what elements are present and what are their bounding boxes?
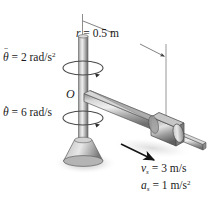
a-unit-exponent: 2	[187, 179, 191, 187]
v-subscript: s	[146, 168, 149, 176]
single-dot-accent: ·	[4, 102, 8, 113]
a-unit: m/s	[170, 179, 187, 191]
equals-sign: =	[12, 51, 19, 63]
a-subscript: s	[147, 185, 150, 193]
horizontal-arm	[84, 91, 156, 129]
omega-value: 6	[21, 106, 27, 118]
angular-velocity-label: θ· = 6 rad/s	[3, 107, 52, 119]
r-unit: m	[110, 27, 119, 39]
slider-acceleration-label: as = 1 m/s2	[141, 180, 191, 193]
omega-unit: rad/s	[30, 106, 52, 118]
r-symbol: r	[76, 27, 80, 39]
equals-sign: =	[152, 179, 159, 191]
equals-sign: =	[83, 27, 90, 39]
origin-label: O	[66, 88, 75, 100]
double-dot-accent: ¨	[4, 47, 8, 58]
equals-sign: =	[152, 162, 159, 174]
mechanics-figure: θ¨ = 2 rad/s2 θ· = 6 rad/s r = 0.5 m O v…	[0, 0, 215, 203]
v-unit: m/s	[170, 162, 187, 174]
slider-velocity-label: vs = 3 m/s	[141, 163, 186, 176]
alpha-unit-exponent: 2	[52, 51, 56, 59]
conical-base	[63, 137, 103, 166]
radius-label: r = 0.5 m	[76, 28, 119, 40]
equals-sign: =	[12, 106, 19, 118]
alpha-value: 2	[21, 51, 27, 63]
alpha-unit: rad/s	[30, 51, 52, 63]
v-value: 3	[161, 162, 167, 174]
angular-acceleration-label: θ¨ = 2 rad/s2	[3, 52, 55, 64]
r-value: 0.5	[93, 27, 107, 39]
a-value: 1	[162, 179, 168, 191]
